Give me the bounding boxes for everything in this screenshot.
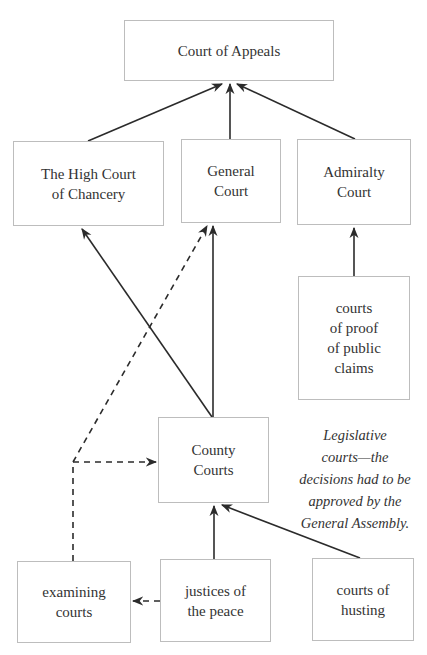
note-line: approved by the bbox=[288, 490, 422, 512]
node-courts-of-proof-of-public-claims: courts of proof of public claims bbox=[298, 276, 410, 400]
node-label-line: justices of bbox=[185, 581, 246, 601]
note-line: courts—the bbox=[288, 446, 422, 468]
node-label-line: claims bbox=[334, 358, 373, 378]
node-label-line: of public bbox=[327, 338, 381, 358]
edge-county-to-chancery bbox=[82, 229, 212, 417]
edge-chancery-to-appeals bbox=[88, 84, 222, 141]
note-line: General Assembly. bbox=[288, 512, 422, 534]
edge-admiralty-to-appeals bbox=[237, 84, 355, 139]
node-label-line: the peace bbox=[187, 601, 243, 621]
node-label-line: husting bbox=[341, 600, 385, 620]
node-label-line: courts bbox=[336, 298, 373, 318]
node-label-line: Admiralty bbox=[323, 162, 385, 182]
legislative-courts-note: Legislative courts—the decisions had to … bbox=[288, 424, 422, 534]
node-label-line: County bbox=[191, 440, 235, 460]
node-county-courts: County Courts bbox=[158, 417, 269, 503]
node-label-line: Courts bbox=[193, 460, 233, 480]
node-examining-courts: examining courts bbox=[17, 561, 131, 643]
note-line: decisions had to be bbox=[288, 468, 422, 490]
node-label-line: General bbox=[207, 161, 254, 181]
node-label-line: Court bbox=[337, 182, 371, 202]
node-label-line: Court bbox=[214, 181, 248, 201]
node-courts-of-husting: courts of husting bbox=[312, 558, 414, 641]
node-label-line: of proof bbox=[330, 318, 379, 338]
node-court-of-appeals: Court of Appeals bbox=[124, 20, 334, 81]
node-admiralty-court: Admiralty Court bbox=[297, 139, 411, 225]
node-label-line: of Chancery bbox=[52, 184, 126, 204]
node-label-line: examining bbox=[42, 582, 105, 602]
node-label-line: The High Court bbox=[41, 164, 136, 184]
node-label-line: Court of Appeals bbox=[178, 41, 281, 61]
note-line: Legislative bbox=[288, 424, 422, 446]
node-label-line: courts bbox=[56, 602, 93, 622]
node-justices-of-the-peace: justices of the peace bbox=[160, 559, 271, 642]
node-label-line: courts of bbox=[337, 580, 390, 600]
node-high-court-of-chancery: The High Court of Chancery bbox=[13, 141, 164, 226]
node-general-court: General Court bbox=[181, 139, 281, 223]
